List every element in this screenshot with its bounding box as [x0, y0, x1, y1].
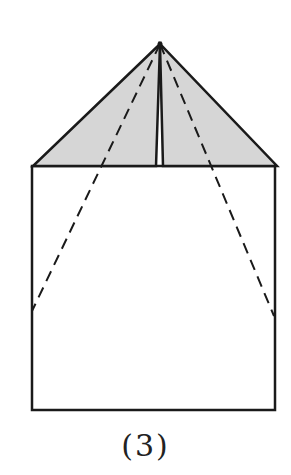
right-folded-flap	[160, 44, 277, 166]
paper-rectangle	[32, 166, 275, 410]
left-dashed-fold-line	[32, 44, 160, 311]
apex-point	[158, 42, 163, 47]
figure-caption: (3)	[0, 428, 291, 463]
left-folded-flap	[33, 44, 160, 166]
diagram-canvas	[0, 0, 291, 475]
folding-diagram: (3)	[0, 0, 291, 475]
right-dashed-fold-line	[160, 44, 274, 316]
